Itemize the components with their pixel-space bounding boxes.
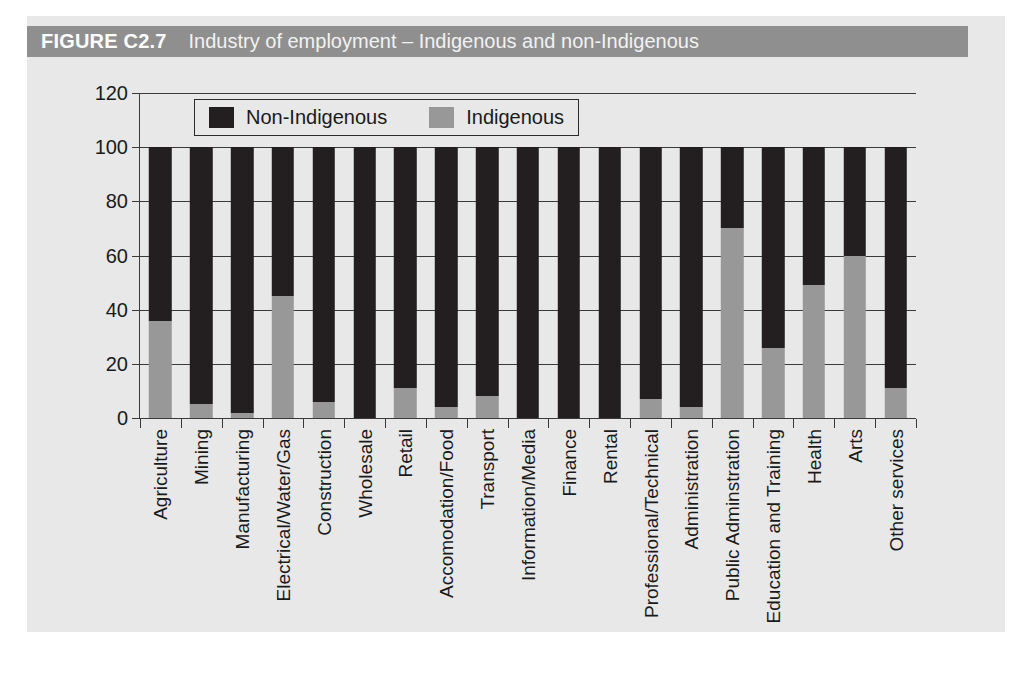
y-axis-label-80: 80 bbox=[106, 190, 128, 213]
stacked-bar[interactable] bbox=[517, 147, 539, 418]
x-tick bbox=[875, 419, 876, 428]
bar-slot bbox=[385, 93, 426, 418]
chart-plot-area: 020406080100120 AgricultureMiningManufac… bbox=[27, 57, 1005, 632]
x-axis-line bbox=[139, 418, 916, 419]
bar-slot bbox=[303, 93, 344, 418]
figure-number: FIGURE C2.7 bbox=[41, 30, 167, 53]
bar-slot bbox=[630, 93, 671, 418]
legend-entry[interactable]: Indigenous bbox=[429, 106, 564, 129]
x-tick bbox=[548, 419, 549, 428]
y-tick-80 bbox=[132, 201, 139, 202]
x-tick bbox=[263, 419, 264, 428]
bar-slot bbox=[508, 93, 549, 418]
bar-slot bbox=[834, 93, 875, 418]
stacked-bar[interactable] bbox=[598, 147, 620, 418]
bar-segment-indigenous bbox=[394, 388, 416, 418]
stacked-bar[interactable] bbox=[476, 147, 498, 418]
y-tick-120 bbox=[132, 93, 139, 94]
legend-label: Non-Indigenous bbox=[246, 106, 387, 129]
bar-slot bbox=[263, 93, 304, 418]
bar-segment-non-indigenous bbox=[231, 147, 253, 412]
x-label-slot: Electrical/Water/Gas bbox=[263, 429, 304, 629]
bar-slot bbox=[181, 93, 222, 418]
x-tick bbox=[834, 419, 835, 428]
bar-segment-indigenous bbox=[272, 296, 294, 418]
stacked-bar[interactable] bbox=[190, 147, 212, 418]
stacked-bar[interactable] bbox=[272, 147, 294, 418]
stacked-bar[interactable] bbox=[558, 147, 580, 418]
y-axis-label-40: 40 bbox=[106, 298, 128, 321]
bar-segment-non-indigenous bbox=[803, 147, 825, 285]
chart-legend: Non-IndigenousIndigenous bbox=[194, 99, 579, 136]
bar-segment-non-indigenous bbox=[721, 147, 743, 228]
bar-slot bbox=[794, 93, 835, 418]
stacked-bar[interactable] bbox=[435, 147, 457, 418]
stacked-bar[interactable] bbox=[394, 147, 416, 418]
x-axis-label-public-adminstration: Public Adminstration bbox=[723, 429, 742, 601]
x-axis-label-manufacturing: Manufacturing bbox=[233, 429, 252, 549]
x-label-slot: Education and Training bbox=[753, 429, 794, 629]
x-label-slot: Other services bbox=[875, 429, 916, 629]
x-tick bbox=[630, 419, 631, 428]
x-label-slot: Wholesale bbox=[344, 429, 385, 629]
bar-segment-non-indigenous bbox=[272, 147, 294, 296]
y-axis-label-0: 0 bbox=[117, 407, 128, 430]
x-axis-label-other-services: Other services bbox=[886, 429, 905, 551]
bar-segment-non-indigenous bbox=[190, 147, 212, 404]
x-tick bbox=[344, 419, 345, 428]
x-label-slot: Retail bbox=[385, 429, 426, 629]
x-label-slot: Arts bbox=[834, 429, 875, 629]
x-label-slot: Professional/Technical bbox=[630, 429, 671, 629]
bar-slot bbox=[712, 93, 753, 418]
bar-slot bbox=[753, 93, 794, 418]
bar-segment-indigenous bbox=[803, 285, 825, 418]
bar-slot bbox=[875, 93, 916, 418]
bar-segment-indigenous bbox=[762, 348, 784, 418]
y-axis-label-120: 120 bbox=[95, 82, 128, 105]
stacked-bar[interactable] bbox=[762, 147, 784, 418]
bar-slot bbox=[140, 93, 181, 418]
y-tick-20 bbox=[132, 364, 139, 365]
x-tick bbox=[753, 419, 754, 428]
x-tick bbox=[671, 419, 672, 428]
bar-segment-non-indigenous bbox=[884, 147, 906, 388]
x-label-slot: Finance bbox=[548, 429, 589, 629]
bar-segment-indigenous bbox=[844, 256, 866, 418]
x-axis-label-rental: Rental bbox=[600, 429, 619, 484]
stacked-bar[interactable] bbox=[721, 147, 743, 418]
legend-entry[interactable]: Non-Indigenous bbox=[209, 106, 387, 129]
stacked-bar[interactable] bbox=[680, 147, 702, 418]
x-tick bbox=[712, 419, 713, 428]
bar-slot bbox=[671, 93, 712, 418]
stacked-bar[interactable] bbox=[231, 147, 253, 418]
x-axis-label-wholesale: Wholesale bbox=[355, 429, 374, 518]
bar-segment-indigenous bbox=[190, 404, 212, 418]
stacked-bar[interactable] bbox=[884, 147, 906, 418]
x-axis-label-finance: Finance bbox=[559, 429, 578, 497]
legend-swatch-indigenous-icon bbox=[429, 107, 454, 128]
stacked-bar[interactable] bbox=[353, 147, 375, 418]
x-label-slot: Mining bbox=[181, 429, 222, 629]
bar-segment-non-indigenous bbox=[844, 147, 866, 255]
bar-segment-non-indigenous bbox=[517, 147, 539, 418]
bar-segment-non-indigenous bbox=[558, 147, 580, 418]
stacked-bar[interactable] bbox=[149, 147, 171, 418]
stacked-bar[interactable] bbox=[313, 147, 335, 418]
stacked-bar[interactable] bbox=[844, 147, 866, 418]
x-tick bbox=[916, 419, 917, 428]
x-tick bbox=[793, 419, 794, 428]
x-axis-label-mining: Mining bbox=[192, 429, 211, 485]
x-axis-label-administration: Administration bbox=[682, 429, 701, 549]
bar-segment-non-indigenous bbox=[639, 147, 661, 399]
bar-segment-non-indigenous bbox=[476, 147, 498, 396]
chart-axes: 020406080100120 bbox=[139, 93, 916, 418]
bar-segment-non-indigenous bbox=[680, 147, 702, 407]
stacked-bar[interactable] bbox=[639, 147, 661, 418]
bar-segment-non-indigenous bbox=[762, 147, 784, 347]
stacked-bar[interactable] bbox=[803, 147, 825, 418]
bar-segment-indigenous bbox=[149, 321, 171, 418]
bar-slot bbox=[344, 93, 385, 418]
x-tick bbox=[181, 419, 182, 428]
y-axis-label-60: 60 bbox=[106, 244, 128, 267]
y-tick-0 bbox=[132, 418, 139, 419]
